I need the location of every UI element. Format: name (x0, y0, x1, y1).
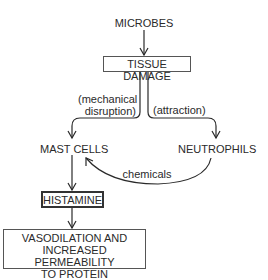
outcome-line3: TO PROTEIN (4, 268, 145, 280)
node-outcome: VASODILATION AND INCREASED PERMEABILITY … (3, 229, 146, 269)
node-mast-cells: MAST CELLS (40, 143, 108, 155)
node-tissue-damage: TISSUE DAMAGE (103, 56, 191, 72)
outcome-line2: INCREASED PERMEABILITY (4, 244, 145, 268)
label-chemicals: chemicals (122, 168, 172, 180)
node-microbes: MICROBES (114, 17, 174, 29)
histamine-label: HISTAMINE (43, 194, 102, 206)
node-histamine: HISTAMINE (41, 191, 104, 208)
label-mechanical-disruption: (mechanical disruption) (78, 93, 136, 117)
node-neutrophils: NEUTROPHILS (178, 143, 254, 155)
outcome-line1: VASODILATION AND (4, 232, 145, 244)
mechanical-line1: (mechanical (78, 93, 136, 105)
tissue-damage-label: TISSUE DAMAGE (123, 58, 171, 82)
label-attraction: (attraction) (153, 104, 213, 116)
mechanical-line2: disruption) (78, 105, 136, 117)
